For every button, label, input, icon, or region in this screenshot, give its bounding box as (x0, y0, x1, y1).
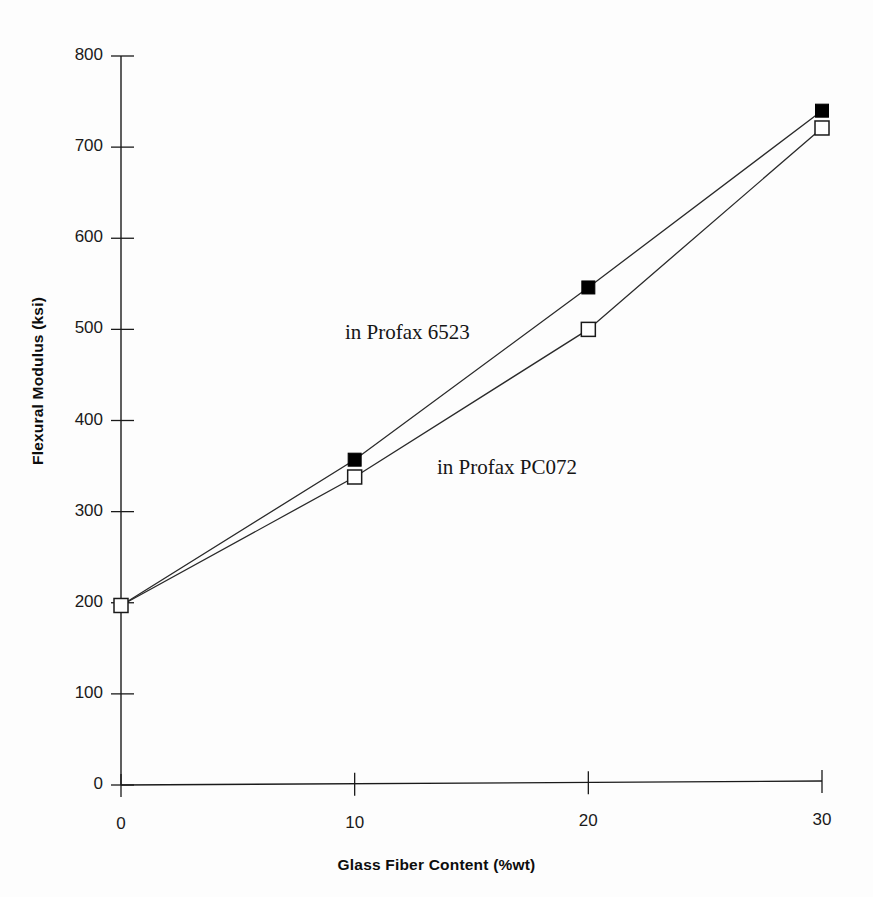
x-axis-title: Glass Fiber Content (%wt) (0, 856, 873, 874)
data-point-marker (581, 322, 595, 336)
data-point-marker (114, 598, 128, 612)
y-tick-label: 100 (45, 683, 103, 703)
y-tick-label: 700 (45, 136, 103, 156)
y-tick-label: 400 (45, 410, 103, 430)
x-axis-line (121, 781, 822, 785)
series-line-2 (121, 128, 822, 606)
series-label-profax-pc072: in Profax PC072 (437, 455, 577, 480)
y-tick-label: 500 (45, 318, 103, 338)
y-tick-label: 600 (45, 227, 103, 247)
data-point-marker (348, 470, 362, 484)
chart-figure: Flexural Modulus (ksi) Glass Fiber Conte… (0, 0, 873, 897)
y-tick-label: 200 (45, 592, 103, 612)
x-tick-label: 30 (792, 810, 852, 830)
data-point-marker (348, 453, 361, 466)
x-tick-label: 20 (558, 811, 618, 831)
series-line-1 (121, 111, 822, 606)
data-point-marker (582, 281, 595, 294)
data-point-marker (816, 104, 829, 117)
y-tick-label: 0 (45, 774, 103, 794)
x-tick-label: 10 (325, 813, 385, 833)
series-label-profax-6523: in Profax 6523 (345, 320, 470, 345)
y-axis-title: Flexural Modulus (ksi) (29, 271, 47, 491)
data-point-marker (815, 121, 829, 135)
y-tick-label: 300 (45, 501, 103, 521)
x-tick-label: 0 (91, 814, 151, 834)
y-tick-label: 800 (45, 45, 103, 65)
chart-plot-area (0, 0, 873, 897)
